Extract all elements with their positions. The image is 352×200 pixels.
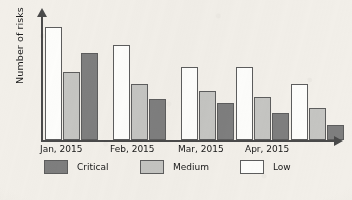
chart-legend: CriticalMediumLow <box>0 160 352 182</box>
x-axis-tick-labels: Jan, 2015Feb, 2015Mar, 2015Apr, 2015 <box>0 144 352 160</box>
legend-swatch-medium <box>140 160 164 174</box>
legend-swatch-low <box>240 160 264 174</box>
legend-label-medium: Medium <box>173 162 209 172</box>
x-tick-label-1: Jan, 2015 <box>40 144 83 154</box>
legend-item-critical[interactable]: Critical <box>44 160 108 174</box>
bar-low-group-2 <box>113 45 130 140</box>
bar-medium-group-3 <box>199 91 216 140</box>
y-axis-line <box>41 14 43 141</box>
bar-low-group-5 <box>291 84 308 140</box>
bar-critical-group-2 <box>149 99 166 140</box>
legend-item-low[interactable]: Low <box>240 160 291 174</box>
bar-medium-group-4 <box>254 97 271 140</box>
bar-medium-group-5 <box>309 108 326 140</box>
bar-medium-group-2 <box>131 84 148 140</box>
x-tick-label-2: Feb, 2015 <box>110 144 155 154</box>
bar-critical-group-4 <box>272 113 289 140</box>
y-axis-label: Number of risks <box>14 0 25 96</box>
legend-item-medium[interactable]: Medium <box>140 160 209 174</box>
bar-low-group-1 <box>45 27 62 140</box>
bar-series-container <box>0 0 352 142</box>
bar-low-group-4 <box>236 67 253 140</box>
legend-label-critical: Critical <box>77 162 108 172</box>
chart-figure: Number of risks Jan, 2015Feb, 2015Mar, 2… <box>0 0 352 200</box>
bar-medium-group-1 <box>63 72 80 140</box>
x-axis-line <box>41 140 336 142</box>
y-axis-arrowhead <box>37 8 47 17</box>
legend-label-low: Low <box>273 162 291 172</box>
bar-low-group-3 <box>181 67 198 140</box>
bar-critical-group-3 <box>217 103 234 140</box>
x-tick-label-4: Apr, 2015 <box>245 144 289 154</box>
legend-swatch-critical <box>44 160 68 174</box>
x-tick-label-3: Mar, 2015 <box>178 144 224 154</box>
bar-critical-group-1 <box>81 53 98 140</box>
